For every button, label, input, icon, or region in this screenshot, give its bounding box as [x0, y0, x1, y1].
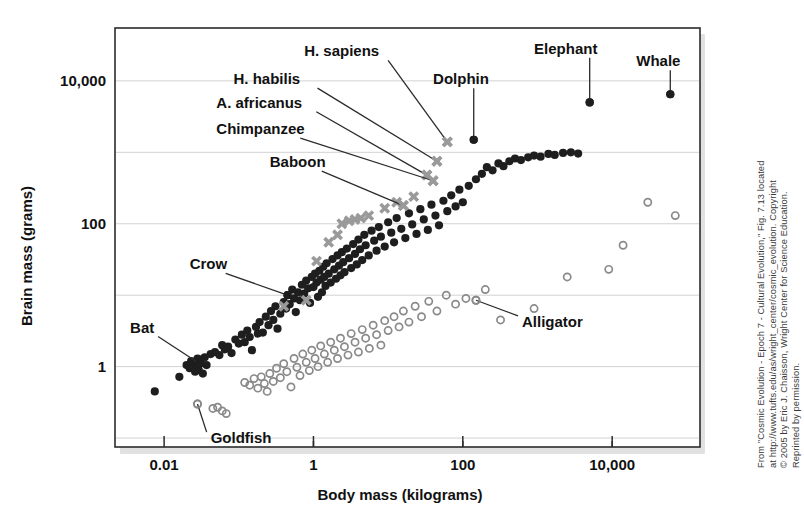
figure-container: 10,00010010.01110010,000H. sapiensH. hab… [0, 0, 804, 531]
data-point-filled [465, 182, 473, 190]
data-point-filled [365, 251, 373, 259]
annotation-label-h-sapiens: H. sapiens [304, 42, 379, 59]
data-point-filled [256, 318, 264, 326]
data-point-filled [259, 328, 267, 336]
data-point-filled [478, 170, 486, 178]
annotated-point-filled [586, 98, 594, 106]
data-point-filled [416, 205, 424, 213]
annotation-label-bat: Bat [130, 319, 154, 336]
data-point-filled [488, 166, 496, 174]
data-point-filled [367, 227, 375, 235]
data-point-filled [459, 198, 467, 206]
data-point-filled [536, 153, 544, 161]
data-point-filled [424, 226, 432, 234]
data-point-filled [175, 373, 183, 381]
data-point-filled [387, 229, 395, 237]
annotation-label-h-habilis: H. habilis [234, 70, 301, 87]
credit-line-1: From "Cosmic Evolution - Epoch 7 - Cultu… [756, 161, 766, 468]
x-tick-label-3: 10,000 [589, 456, 635, 473]
y-axis-title: Brain mass (grams) [18, 186, 35, 326]
data-point-filled [408, 220, 416, 228]
annotation-label-crow: Crow [190, 255, 228, 272]
plot-layer: 10,00010010.01110010,000H. sapiensH. hab… [60, 28, 700, 473]
annotated-point-filled [470, 136, 478, 144]
x-axis-title: Body mass (kilograms) [317, 486, 482, 503]
data-point-filled [447, 191, 455, 199]
annotation-label-a-africanus: A. africanus [216, 94, 302, 111]
data-point-filled [372, 247, 380, 255]
credit-line-4: Reprinted by permission. [791, 363, 801, 468]
data-point-filled [269, 316, 277, 324]
data-point-filled [517, 156, 525, 164]
data-point-filled [202, 361, 210, 369]
annotation-label-whale: Whale [636, 52, 680, 69]
data-point-filled [375, 223, 383, 231]
data-point-filled [435, 221, 443, 229]
data-point-filled [381, 242, 389, 250]
y-tick-label-0: 10,000 [60, 72, 106, 89]
annotated-point-filled [666, 90, 674, 98]
annotation-label-baboon: Baboon [270, 153, 326, 170]
credit-line-2: at http://www.tufts.edu/as/wright_center… [768, 180, 778, 468]
data-point-filled [292, 308, 300, 316]
data-point-filled [360, 231, 368, 239]
data-point-filled [384, 218, 392, 226]
data-point-filled [443, 207, 451, 215]
x-tick-label-2: 100 [450, 456, 475, 473]
data-point-filled [151, 387, 159, 395]
credit-line-3: © 2005 by Eric J. Chaisson, Wright Cente… [779, 191, 789, 468]
annotated-point-filled [196, 360, 204, 368]
brain-mass-vs-body-mass-scatter-plot: 10,00010010.01110010,000H. sapiensH. hab… [0, 0, 804, 531]
data-point-filled [567, 148, 575, 156]
data-point-filled [393, 214, 401, 222]
data-point-filled [397, 225, 405, 233]
data-point-filled [427, 201, 435, 209]
data-point-filled [420, 215, 428, 223]
annotated-point-filled [283, 291, 291, 299]
data-point-filled [431, 212, 439, 220]
y-tick-label-2: 1 [98, 358, 106, 375]
data-point-filled [455, 186, 463, 194]
x-tick-label-0: 0.01 [150, 456, 179, 473]
data-point-filled [273, 325, 281, 333]
data-point-filled [574, 149, 582, 157]
annotation-label-alligator: Alligator [522, 313, 583, 330]
data-point-filled [246, 333, 254, 341]
annotation-label-elephant: Elephant [534, 40, 597, 57]
data-point-filled [227, 349, 235, 357]
data-point-filled [439, 197, 447, 205]
data-point-filled [199, 369, 207, 377]
data-point-filled [362, 241, 370, 249]
annotation-label-goldfish: Goldfish [211, 429, 272, 446]
data-point-filled [559, 149, 567, 157]
y-tick-label-1: 100 [81, 215, 106, 232]
data-point-filled [377, 233, 385, 241]
data-point-filled [248, 346, 256, 354]
annotation-label-chimpanzee: Chimpanzee [216, 120, 304, 137]
data-point-filled [412, 230, 420, 238]
data-point-filled [390, 238, 398, 246]
data-point-filled [451, 202, 459, 210]
data-point-filled [551, 151, 559, 159]
data-point-filled [401, 234, 409, 242]
x-tick-label-1: 1 [309, 456, 317, 473]
annotation-label-dolphin: Dolphin [433, 70, 489, 87]
